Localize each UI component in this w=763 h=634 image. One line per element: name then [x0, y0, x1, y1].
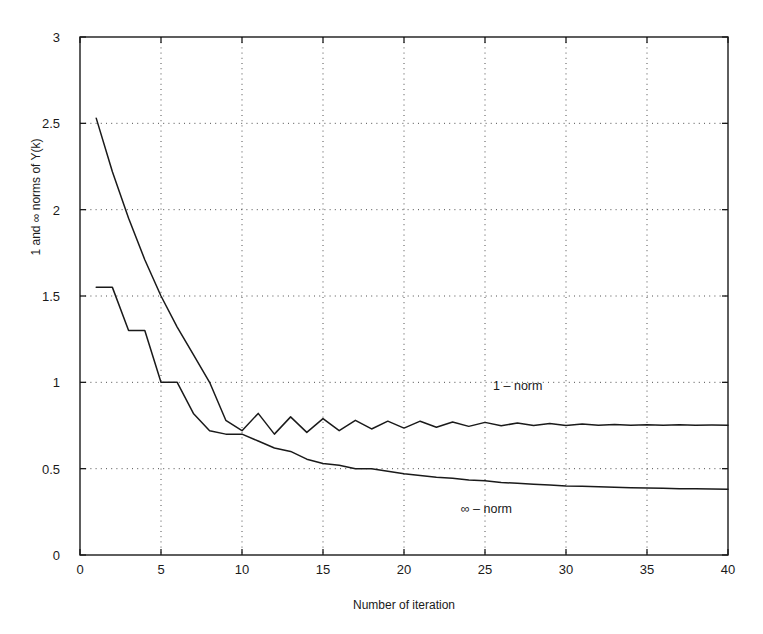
- chart-figure: 1 and ∞ norms of Y(k) Number of iteratio…: [0, 0, 763, 634]
- x-tick-label: 0: [76, 562, 83, 577]
- x-axis-label: Number of iteration: [80, 598, 728, 612]
- series-line-inf-norm: [96, 287, 728, 489]
- annotation-one-norm: 1 – norm: [493, 379, 542, 393]
- chart-canvas: [0, 0, 763, 634]
- x-tick-label: 15: [316, 562, 330, 577]
- y-axis-label: 1 and ∞ norms of Y(k): [29, 97, 43, 297]
- y-tick-label: 1.5: [42, 289, 60, 304]
- x-tick-label: 30: [559, 562, 573, 577]
- annotation-inf-norm: ∞ – norm: [461, 502, 512, 516]
- x-tick-label: 5: [157, 562, 164, 577]
- y-tick-label: 0: [53, 548, 60, 563]
- y-tick-label: 2: [53, 202, 60, 217]
- y-tick-label: 2.5: [42, 116, 60, 131]
- y-tick-label: 3: [53, 30, 60, 45]
- x-tick-label: 25: [478, 562, 492, 577]
- y-tick-label: 1: [53, 375, 60, 390]
- x-tick-label: 10: [235, 562, 249, 577]
- plot-area: [0, 0, 763, 634]
- x-tick-label: 20: [397, 562, 411, 577]
- y-tick-label: 0.5: [42, 461, 60, 476]
- series-line-one-norm: [96, 118, 728, 434]
- x-tick-label: 35: [640, 562, 654, 577]
- x-tick-label: 40: [721, 562, 735, 577]
